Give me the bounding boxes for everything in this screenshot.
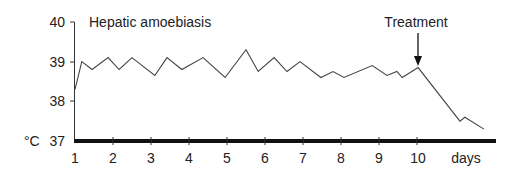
x-tick-label-8: 8	[337, 150, 345, 166]
x-tick-label-10: 10	[410, 150, 426, 166]
x-unit-label: days	[451, 150, 481, 166]
x-tick-label-1: 1	[71, 150, 79, 166]
x-tick-label-2: 2	[109, 150, 117, 166]
y-tick-label-37: 37	[49, 133, 65, 149]
treatment-arrow-icon	[414, 56, 422, 66]
y-unit-label: °C	[24, 133, 40, 149]
x-tick-label-6: 6	[261, 150, 269, 166]
y-tick-label-40: 40	[49, 14, 65, 30]
chart-title: Hepatic amoebiasis	[89, 14, 211, 30]
temperature-chart: 40 39 38 37 °C 1 2 3 4 5 6 7 8 9 10 days…	[0, 0, 516, 175]
y-tick-label-38: 38	[49, 93, 65, 109]
treatment-label: Treatment	[384, 14, 447, 30]
x-tick-label-5: 5	[223, 150, 231, 166]
x-tick-label-9: 9	[375, 150, 383, 166]
temperature-line	[75, 50, 484, 129]
x-tick-label-3: 3	[147, 150, 155, 166]
x-tick-label-4: 4	[185, 150, 193, 166]
y-tick-label-39: 39	[49, 54, 65, 70]
x-tick-label-7: 7	[299, 150, 307, 166]
